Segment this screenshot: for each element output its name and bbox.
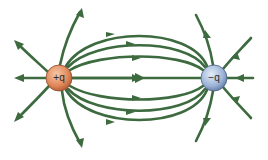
- negative-charge-label: −q: [201, 65, 227, 91]
- dipole-field-diagram: +q −q: [0, 0, 268, 160]
- positive-charge-label: +q: [46, 65, 72, 91]
- field-lines: [0, 0, 268, 160]
